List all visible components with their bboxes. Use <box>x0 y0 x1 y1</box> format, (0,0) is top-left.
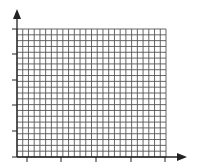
x-axis-arrow-icon <box>177 153 187 161</box>
y-axis-arrow-icon <box>13 9 21 19</box>
axis-ticks <box>12 29 165 162</box>
coordinate-grid-chart <box>0 0 197 168</box>
grid-lines <box>17 29 166 157</box>
